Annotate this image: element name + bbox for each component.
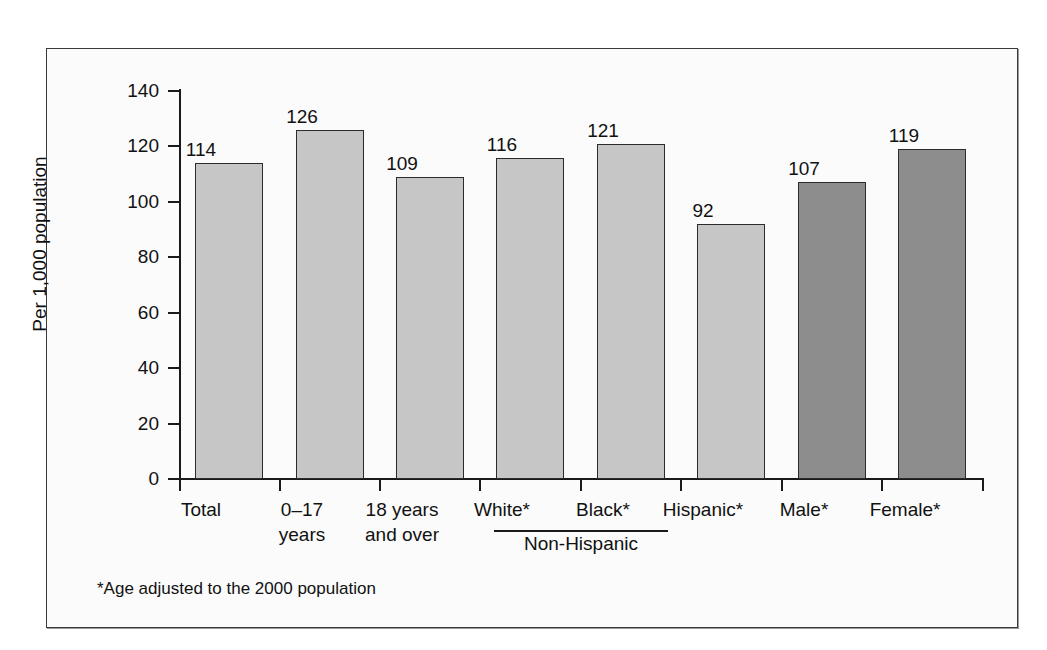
bar-male[interactable]: [798, 182, 866, 479]
bar-hispanic[interactable]: [697, 224, 765, 479]
category-label-total-line1: Total: [181, 499, 221, 520]
bar-value-total: 114: [161, 139, 241, 161]
category-label-hispanic: Hispanic*: [653, 497, 753, 522]
y-axis-label-40: 40: [93, 357, 159, 379]
category-label-18-years-and-over: 18 years and over: [353, 497, 451, 547]
x-axis-tick-6: [781, 480, 783, 491]
category-label-black-line1: Black*: [576, 499, 630, 520]
bar-value-white: 116: [462, 134, 542, 156]
category-label-18-years-and-over-line1: 18 years: [366, 499, 439, 520]
category-label-male: Male*: [762, 497, 846, 522]
non-hispanic-bracket-rule: [494, 530, 668, 532]
y-axis-label-60: 60: [93, 302, 159, 324]
y-axis-label-0: 0: [93, 468, 159, 490]
x-axis-tick-2: [379, 480, 381, 491]
y-axis-tick-40: [168, 367, 179, 369]
category-label-0-17-years: 0–17 years: [260, 497, 344, 547]
x-axis-tick-8: [982, 480, 984, 491]
y-axis-label-140: 140: [93, 80, 159, 102]
footnote: *Age adjusted to the 2000 population: [97, 579, 376, 599]
bar-value-male: 107: [764, 158, 844, 180]
bar-value-black: 121: [563, 120, 643, 142]
y-axis-tick-140: [168, 90, 179, 92]
non-hispanic-bracket-label: Non-Hispanic: [494, 533, 668, 555]
bar-value-female: 119: [864, 125, 944, 147]
category-label-white: White*: [460, 497, 544, 522]
category-label-18-years-and-over-line2: and over: [353, 522, 451, 547]
x-axis-tick-7: [881, 480, 883, 491]
y-axis-tick-0: [168, 478, 179, 480]
category-label-hispanic-line1: Hispanic*: [663, 499, 743, 520]
category-label-total: Total: [159, 497, 243, 522]
x-axis-tick-3: [479, 480, 481, 491]
figure-frame: 140 120 100 80 60 40 20 0 Per 1,000 popu…: [46, 48, 1018, 628]
y-axis-tick-100: [168, 201, 179, 203]
x-axis-tick-5: [680, 480, 682, 491]
y-axis-tick-80: [168, 256, 179, 258]
y-axis-tick-20: [168, 423, 179, 425]
y-axis-label-80: 80: [93, 246, 159, 268]
category-label-female: Female*: [856, 497, 954, 522]
y-axis-title: Per 1,000 population: [29, 129, 51, 359]
category-label-white-line1: White*: [474, 499, 530, 520]
category-label-0-17-years-line2: years: [260, 522, 344, 547]
x-axis-tick-4: [580, 480, 582, 491]
x-axis-tick-1: [279, 480, 281, 491]
bar-value-0-17-years: 126: [262, 106, 342, 128]
y-axis-label-120: 120: [93, 135, 159, 157]
bar-female[interactable]: [898, 149, 966, 479]
bar-chart: 140 120 100 80 60 40 20 0 Per 1,000 popu…: [1, 1, 1047, 650]
bar-total[interactable]: [195, 163, 263, 479]
bar-0-17-years[interactable]: [296, 130, 364, 479]
category-label-female-line1: Female*: [870, 499, 941, 520]
bar-white[interactable]: [496, 158, 564, 479]
category-label-male-line1: Male*: [780, 499, 829, 520]
bar-value-hispanic: 92: [663, 200, 743, 222]
y-axis-label-20: 20: [93, 413, 159, 435]
category-label-black: Black*: [561, 497, 645, 522]
y-axis-tick-60: [168, 312, 179, 314]
bar-value-18-years-and-over: 109: [362, 153, 442, 175]
bar-18-years-and-over[interactable]: [396, 177, 464, 479]
y-axis-label-100: 100: [93, 191, 159, 213]
x-axis-tick-0: [179, 480, 181, 491]
category-label-0-17-years-line1: 0–17: [281, 499, 323, 520]
bar-black[interactable]: [597, 144, 665, 479]
plot-area: [179, 91, 982, 479]
